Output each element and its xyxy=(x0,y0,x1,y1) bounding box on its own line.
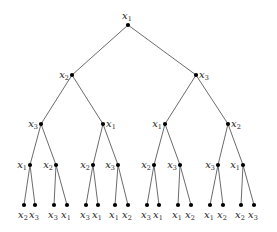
node-label: x2 xyxy=(185,209,195,222)
tree-node xyxy=(178,163,182,167)
node-label: x2 xyxy=(217,209,227,222)
node-label: x3 xyxy=(167,159,177,172)
node-label: x3 xyxy=(141,209,151,222)
leaf-node xyxy=(113,203,117,207)
leaf-node xyxy=(52,203,56,207)
node-label: x2 xyxy=(141,159,151,172)
tree-edge xyxy=(41,75,72,124)
node-label: x1 xyxy=(153,209,163,222)
tree-node xyxy=(101,122,105,126)
leaf-node xyxy=(239,203,243,207)
tree-edge xyxy=(54,165,56,205)
leaf-node xyxy=(221,203,225,207)
node-label: x1 xyxy=(152,118,162,131)
tree-node xyxy=(116,163,120,167)
node-label: x2 xyxy=(59,69,69,82)
node-label: x2 xyxy=(80,159,90,172)
tree-edge xyxy=(72,75,103,124)
tree-edge xyxy=(243,165,254,205)
tree-node xyxy=(241,163,245,167)
node-label: x2 xyxy=(235,209,245,222)
tree-edge xyxy=(178,165,180,205)
tree-node xyxy=(152,163,156,167)
node-label: x1 xyxy=(204,209,214,222)
tree-edge xyxy=(241,165,243,205)
node-label: x3 xyxy=(28,118,38,131)
node-label: x1 xyxy=(92,209,102,222)
tree-edge xyxy=(196,75,228,124)
nodes-group xyxy=(22,23,256,207)
tree-edge xyxy=(56,165,67,205)
leaf-node xyxy=(208,203,212,207)
tree-edge xyxy=(154,165,159,205)
tree-edge xyxy=(93,165,98,205)
tree-edge xyxy=(93,124,103,165)
node-label: x1 xyxy=(230,159,240,172)
tree-edge xyxy=(30,165,35,205)
node-label: x1 xyxy=(106,118,116,131)
tree-node xyxy=(39,122,43,126)
node-label: x2 xyxy=(18,209,28,222)
leaf-node xyxy=(157,203,161,207)
tree-edge xyxy=(128,25,196,75)
node-label: x1 xyxy=(17,159,27,172)
node-label: x3 xyxy=(205,159,215,172)
edges-group xyxy=(24,25,254,205)
node-label: x3 xyxy=(105,159,115,172)
leaf-node xyxy=(84,203,88,207)
tree-edge xyxy=(165,75,196,124)
node-label: x1 xyxy=(109,209,119,222)
node-label: x1 xyxy=(172,209,182,222)
node-label: x2 xyxy=(231,118,241,131)
node-label: x2 xyxy=(122,209,132,222)
tree-node xyxy=(28,163,32,167)
node-label: x2 xyxy=(43,159,53,172)
tree-node xyxy=(226,122,230,126)
node-label: x1 xyxy=(122,10,132,23)
leaf-node xyxy=(65,203,69,207)
tree-node xyxy=(91,163,95,167)
tree-node xyxy=(70,73,74,77)
leaf-node xyxy=(22,203,26,207)
leaf-node xyxy=(33,203,37,207)
tree-edge xyxy=(218,124,228,165)
leaf-node xyxy=(176,203,180,207)
tree-edge xyxy=(115,165,118,205)
tree-edge xyxy=(180,165,191,205)
tree-edge xyxy=(118,165,128,205)
leaf-node xyxy=(252,203,256,207)
node-label: x3 xyxy=(248,209,258,222)
node-label: x3 xyxy=(29,209,39,222)
tree-edge xyxy=(218,165,223,205)
node-label: x3 xyxy=(48,209,58,222)
tree-node xyxy=(54,163,58,167)
leaf-node xyxy=(96,203,100,207)
node-label: x3 xyxy=(80,209,90,222)
labels-group: x1x2x3x3x1x1x2x1x2x2x3x2x3x3x1x2x3x3x1x3… xyxy=(17,10,258,222)
leaf-node xyxy=(126,203,130,207)
node-label: x3 xyxy=(199,69,209,82)
leaf-node xyxy=(145,203,149,207)
tree-node xyxy=(126,23,130,27)
node-label: x1 xyxy=(61,209,71,222)
leaf-node xyxy=(189,203,193,207)
tree-edge xyxy=(72,25,128,75)
tree-diagram: x1x2x3x3x1x1x2x1x2x2x3x2x3x3x1x2x3x3x1x3… xyxy=(0,0,277,232)
tree-diagram-svg: x1x2x3x3x1x1x2x1x2x2x3x2x3x3x1x2x3x3x1x3… xyxy=(0,0,277,232)
tree-node xyxy=(216,163,220,167)
tree-node xyxy=(194,73,198,77)
tree-node xyxy=(163,122,167,126)
